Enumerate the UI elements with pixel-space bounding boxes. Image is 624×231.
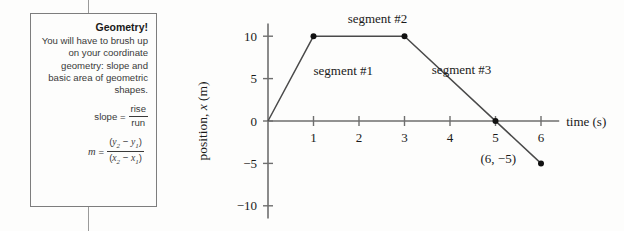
m-denominator: (x2 − x1) — [107, 153, 144, 166]
figure-page: Geometry! You will have to brush up on y… — [0, 0, 624, 231]
m-num-y1: y1 — [131, 136, 139, 147]
slope-formula: slope = rise run — [39, 104, 148, 127]
m-numerator: (y2 − y1) — [107, 137, 144, 150]
data-point-0 — [311, 33, 317, 39]
annotation-segment-1: segment #1 — [314, 63, 374, 78]
callout-body-text: You will have to brush up on your coordi… — [39, 35, 148, 96]
annotation--6-5-: (6, −5) — [480, 151, 515, 166]
y-tick-label-0: 0 — [251, 114, 258, 129]
m-den-minus: − — [120, 152, 131, 163]
geometry-callout-box: Geometry! You will have to brush up on y… — [30, 13, 157, 207]
y-axis-label: position, x (m) — [195, 81, 210, 160]
callout-connector-top — [88, 0, 89, 14]
x-tick-label-6: 6 — [538, 130, 545, 145]
callout-title: Geometry! — [39, 21, 148, 34]
y-tick-label-10: 10 — [244, 29, 257, 44]
data-markers-group — [311, 33, 545, 166]
y-tick-label-−10: −10 — [237, 198, 257, 213]
m-den-close: ) — [139, 152, 142, 163]
axes-group — [268, 23, 559, 218]
chart-svg: 1234561050−5−10 segment #1segment #2segm… — [190, 0, 624, 231]
annotations-group: segment #1segment #2segment #3(6, −5) — [314, 11, 516, 166]
x-tick-label-4: 4 — [447, 130, 454, 145]
x-tick-label-1: 1 — [310, 130, 317, 145]
callout-connector-bottom — [88, 207, 89, 231]
data-point-3 — [538, 160, 544, 166]
m-den-x2: x2 — [112, 152, 120, 163]
slope-m-formula: m = (y2 − y1) (x2 − x1) — [39, 137, 148, 167]
m-den-x1: x1 — [131, 152, 139, 163]
data-point-2 — [493, 118, 499, 124]
slope-numerator: rise — [129, 104, 148, 114]
m-equals: = — [99, 146, 105, 157]
y-axis-label-text: (m) — [195, 81, 210, 104]
x-tick-label-5: 5 — [492, 130, 499, 145]
m-num-close: ) — [139, 136, 142, 147]
y-axis-label-var: x — [195, 104, 210, 111]
x-tick-label-2: 2 — [356, 130, 363, 145]
m-num-y2: y2 — [112, 136, 120, 147]
slope-fraction: rise run — [129, 104, 148, 127]
m-num-minus: − — [120, 136, 131, 147]
data-point-1 — [402, 33, 408, 39]
slope-formula-lhs: slope = — [94, 111, 125, 122]
m-fraction: (y2 − y1) (x2 − x1) — [107, 137, 144, 167]
annotation-segment-2: segment #2 — [348, 11, 408, 26]
y-axis-label-text: position, — [195, 110, 210, 160]
slope-denominator: run — [129, 118, 147, 128]
position-time-chart: 1234561050−5−10 segment #1segment #2segm… — [190, 0, 624, 231]
x-axis-label: time (s) — [566, 114, 606, 129]
x-tick-label-3: 3 — [401, 130, 408, 145]
m-variable: m — [88, 146, 96, 157]
y-tick-label-5: 5 — [251, 71, 258, 86]
y-tick-label-−5: −5 — [243, 156, 257, 171]
annotation-segment-3: segment #3 — [432, 62, 492, 77]
